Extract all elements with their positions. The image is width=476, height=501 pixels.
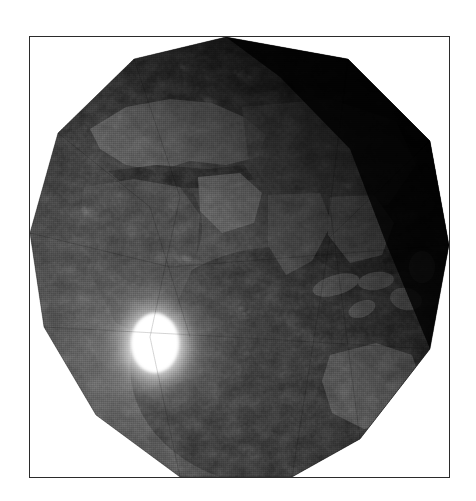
globe-body [30, 37, 449, 477]
globe-render [30, 37, 449, 477]
sun-glint-core [131, 313, 179, 373]
globe-stage [30, 37, 449, 477]
figure-title [0, 0, 1, 1]
scene-description: Low-polygon shaded relief globe of Earth… [0, 0, 1, 1]
figure-caption [0, 0, 1, 1]
figure-root: Low-polygon shaded relief globe of Earth… [0, 0, 476, 501]
figure-frame [29, 36, 450, 478]
